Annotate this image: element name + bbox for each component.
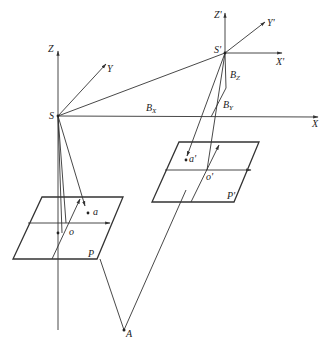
label-x: X [312,119,318,129]
label-z-prime: Z' [214,10,222,20]
label-s: S [49,111,54,121]
label-o-prime: o' [206,172,213,182]
point-s [57,115,60,118]
ray-s-aux [58,116,62,233]
label-p: P [88,249,94,259]
label-by: BY [223,100,233,112]
point-s-prime [224,52,227,55]
ray-s-o [58,116,66,223]
image-plane-p [13,197,123,259]
point-o-dot [57,232,60,235]
plane-p-y-axis [52,199,80,259]
point-a-prime-image [185,159,188,162]
label-p-prime: P' [227,191,235,201]
y-prime-axis [225,22,265,53]
ray-s-a [58,116,85,206]
label-a-prime-image: a' [189,154,196,164]
y-axis [58,64,106,116]
x-axis [58,116,318,117]
point-a-image [87,212,90,215]
label-s-prime: S' [214,45,221,55]
label-z: Z [48,44,54,54]
ray-sprime-a [187,53,225,156]
label-a-image: a [93,207,98,217]
ray-to-a-left [100,259,124,330]
ray-to-a-right [124,190,186,330]
label-x-prime: X' [276,57,284,67]
label-bx: BX [146,103,156,115]
label-y-prime: Y' [267,18,275,28]
label-bz: BZ [230,70,240,82]
label-y: Y [107,64,113,74]
label-o: o [69,227,74,237]
label-ground-a: A [126,329,132,339]
baseline-line [58,53,225,116]
